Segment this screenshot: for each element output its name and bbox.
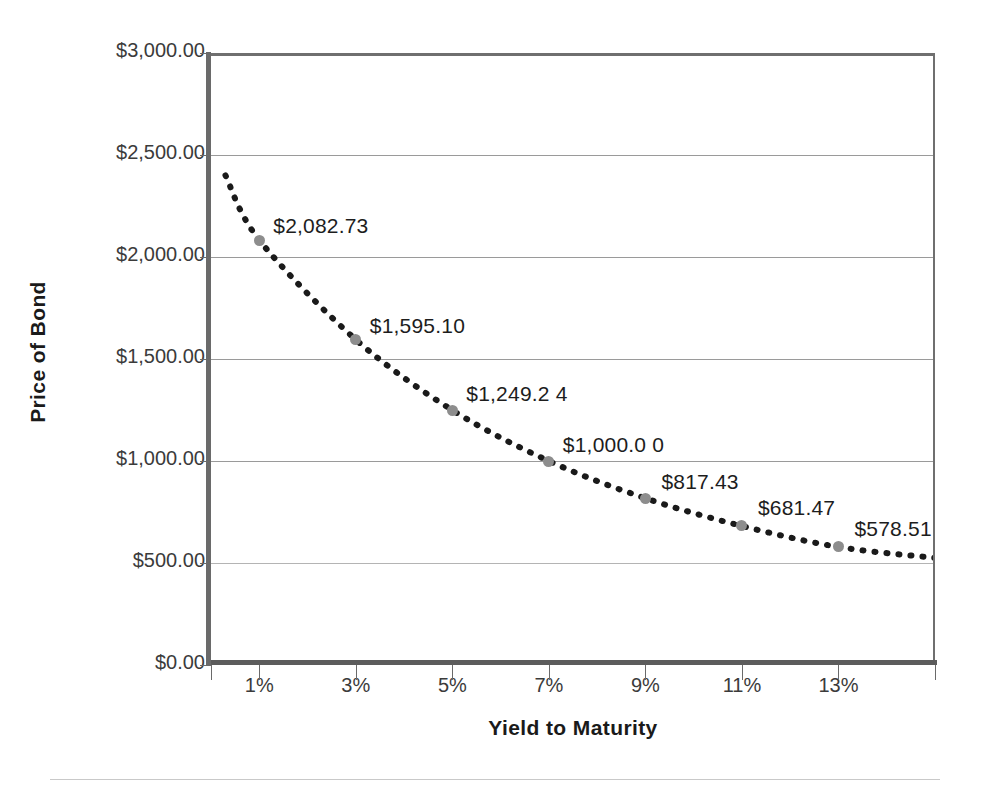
data-point-label: $817.43 [661,470,738,494]
x-tick-mark [259,665,260,680]
x-tick-mark [211,665,212,680]
data-point-label: $1,000.0 0 [563,433,664,457]
chart-figure: Price of Bond $0.00$500.00$1,000.00$1,50… [0,0,989,795]
data-marker [543,456,554,467]
data-point-label: $1,595.10 [370,314,465,338]
data-point-label: $578.51 [854,517,931,541]
data-point-label: $681.47 [758,496,835,520]
x-axis-line [208,660,937,665]
data-point-label: $1,249.2 4 [466,382,567,406]
x-tick-mark [356,665,357,680]
data-point-label: $2,082.73 [273,214,368,238]
y-axis-tick-label: $1,500.00 [70,345,205,368]
plot-right-clip [935,53,989,665]
y-axis-tick-label: $3,000.00 [70,39,205,62]
footer-divider [50,779,940,780]
x-tick-mark [452,665,453,680]
plot-border-right [933,53,935,665]
x-tick-mark [645,665,646,680]
y-axis-tick-labels: $0.00$500.00$1,000.00$1,500.00$2,000.00$… [65,0,205,795]
x-axis-title: Yield to Maturity [211,716,935,740]
y-axis-title: Price of Bond [26,252,50,452]
plot-area: $2,082.73$1,595.10$1,249.2 4$1,000.0 0$8… [211,53,935,665]
y-axis-line [206,52,211,666]
data-marker [447,405,458,416]
x-tick-mark [549,665,550,680]
x-tick-mark [838,665,839,680]
y-axis-tick-label: $1,000.00 [70,447,205,470]
y-axis-tick-label: $2,500.00 [70,141,205,164]
data-marker [640,493,651,504]
x-tick-mark [742,665,743,680]
bond-price-curve [211,53,935,665]
y-axis-tick-label: $2,000.00 [70,243,205,266]
y-axis-tick-label: $500.00 [70,549,205,572]
data-marker [254,235,265,246]
plot-border-top [211,53,935,56]
y-axis-tick-label: $0.00 [70,651,205,674]
x-tick-mark [935,665,936,680]
